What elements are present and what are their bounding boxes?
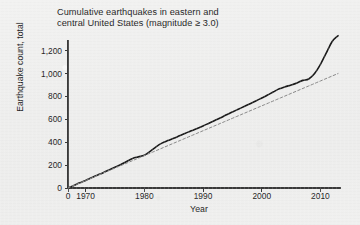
axes [68,40,341,188]
chart-figure: Cumulative earthquakes in eastern and ce… [0,0,360,225]
series-linear-trend [68,74,338,188]
plot-canvas [0,0,360,225]
data-series-group [68,36,338,188]
series-cumulative-count [68,36,338,188]
